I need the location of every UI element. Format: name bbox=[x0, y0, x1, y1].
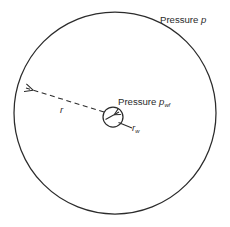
drainage-radius-symbol: r bbox=[60, 104, 63, 115]
wellbore-pressure-label: Pressure pwf bbox=[118, 97, 170, 107]
wellbore-radius-leader-line bbox=[119, 123, 133, 129]
wellbore-radius-subscript: w bbox=[135, 128, 139, 134]
outer-pressure-label: Pressure p bbox=[160, 15, 206, 25]
drainage-radius-label: r bbox=[60, 105, 63, 115]
wellbore-circle bbox=[103, 107, 123, 127]
diagram-canvas bbox=[0, 0, 230, 227]
wellbore-pressure-prefix: Pressure bbox=[118, 96, 156, 107]
wellbore-radius-label: rw bbox=[132, 123, 139, 133]
outer-pressure-symbol: p bbox=[201, 14, 206, 25]
outer-pressure-prefix: Pressure bbox=[160, 14, 198, 25]
wellbore-pressure-subscript: wf bbox=[164, 102, 170, 108]
radial-flow-diagram: Pressure p Pressure pwf r rw bbox=[0, 0, 230, 227]
drainage-radius-arrow bbox=[26, 88, 104, 112]
